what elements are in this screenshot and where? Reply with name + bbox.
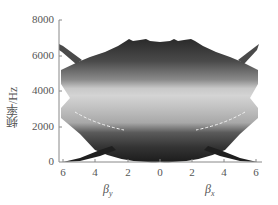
xtick-label-2-right: 2 bbox=[185, 166, 199, 178]
ytick-label-8000: 8000 bbox=[14, 13, 54, 25]
ytick-label-6000: 6000 bbox=[14, 49, 54, 61]
dispersion-chart: 8000 6000 4000 2000 0 频率/Hz 6 4 2 0 2 4 … bbox=[0, 0, 278, 205]
spike-upper-right bbox=[238, 44, 259, 64]
x-axis-label-beta-x: βx bbox=[205, 182, 215, 198]
xtick-label-4-left: 4 bbox=[88, 166, 102, 178]
chart-plot bbox=[0, 0, 278, 205]
spike-upper-left bbox=[59, 44, 82, 64]
xtick-label-2-left: 2 bbox=[121, 166, 135, 178]
xtick-label-6-left: 6 bbox=[56, 166, 70, 178]
y-axis-label: 频率/Hz bbox=[4, 72, 24, 142]
xtick-label-4-right: 4 bbox=[217, 166, 231, 178]
ytick-label-0: 0 bbox=[14, 155, 54, 167]
x-axis-label-beta-y: βy bbox=[103, 182, 113, 198]
xtick-label-6-right: 6 bbox=[249, 166, 263, 178]
band-surface bbox=[61, 39, 258, 162]
xtick-label-0: 0 bbox=[153, 166, 167, 178]
